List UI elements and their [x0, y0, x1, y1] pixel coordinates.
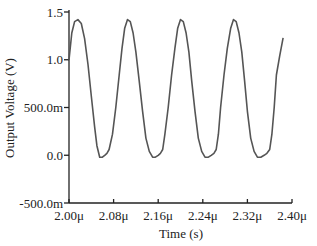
y-tick-label: 500.0m	[24, 100, 63, 115]
line-chart: 1.51.0500.0m0.0-500.0m 2.00μ2.08μ2.16μ2.…	[0, 0, 317, 246]
x-tick-label: 2.00μ	[54, 208, 84, 223]
y-tick-label: 1.0	[47, 52, 63, 67]
y-axis-title: Output Voltage (V)	[2, 58, 17, 158]
y-tick-label: 1.5	[47, 5, 63, 20]
x-tick-label: 2.08μ	[99, 208, 129, 223]
y-tick-label: 0.0	[47, 148, 63, 163]
output-voltage-trace	[69, 20, 283, 158]
x-tick-label: 2.24μ	[188, 208, 218, 223]
x-tick-label: 2.32μ	[233, 208, 263, 223]
x-tick-label: 2.40μ	[277, 208, 307, 223]
x-axis-title: Time (s)	[159, 226, 203, 241]
y-axis: 1.51.0500.0m0.0-500.0m	[19, 5, 69, 211]
x-axis: 2.00μ2.08μ2.16μ2.24μ2.32μ2.40μ	[54, 199, 307, 223]
x-tick-label: 2.16μ	[143, 208, 173, 223]
plot-area	[69, 20, 283, 158]
